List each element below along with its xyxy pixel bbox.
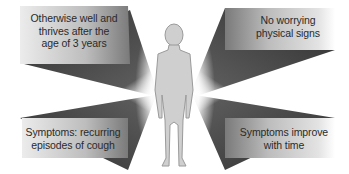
panel-top-right-line1: No worrying	[238, 14, 338, 27]
panel-bottom-right: Symptoms improve with time	[230, 126, 338, 151]
panel-bottom-left: Symptoms: recurring episodes of cough	[18, 126, 128, 151]
panel-bottom-left-line1: Symptoms: recurring	[18, 126, 128, 139]
panel-top-right: No worrying physical signs	[238, 14, 338, 39]
panel-top-left: Otherwise well and thrives after the age…	[22, 12, 126, 50]
panel-top-left-line2: thrives after the	[22, 25, 126, 38]
panel-bottom-left-line2: episodes of cough	[18, 139, 128, 152]
panel-top-left-line1: Otherwise well and	[22, 12, 126, 25]
panel-bottom-right-line1: Symptoms improve	[230, 126, 338, 139]
diagram: Otherwise well and thrives after the age…	[0, 0, 349, 174]
panel-top-right-line2: physical signs	[238, 27, 338, 40]
panel-top-left-line3: age of 3 years	[22, 37, 126, 50]
panel-bottom-right-line2: with time	[230, 139, 338, 152]
